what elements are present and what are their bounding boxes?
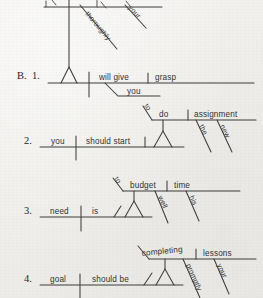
exercise-4: 4. goal should be completing lessons pro… — [24, 245, 256, 298]
ex3-infinitive-object: time — [174, 181, 190, 190]
top-fragment-a — [52, 0, 56, 5]
diagram-canvas: thoroughly your B. 1. will give grasp yo… — [0, 0, 263, 298]
ex2-modifier-the: the — [197, 123, 210, 136]
ex4-gerund-verb: completing — [141, 245, 183, 258]
ex3-predicate-slant — [114, 206, 121, 217]
ex2-subject: you — [51, 137, 65, 146]
ex4-gerund-object: lessons — [203, 249, 232, 258]
word-thoroughly: thoroughly — [83, 10, 113, 43]
ex2-modifier-new: new — [218, 123, 232, 140]
ex3-verb: is — [92, 207, 98, 216]
ex1-verb: will give — [98, 73, 129, 82]
ex1-pedestal-triangle — [61, 67, 77, 83]
word-your-top: your — [127, 3, 144, 20]
ex4-pedestal-triangle — [156, 269, 174, 285]
ex3-number: 3. — [24, 205, 32, 216]
ex2-infinitive-marker: to — [142, 102, 153, 113]
ex2-number: 2. — [24, 135, 32, 146]
ex3-modifier-his: his — [187, 194, 199, 207]
ex3-subject: need — [50, 207, 69, 216]
ex4-modifier-promptly: promptly — [184, 262, 204, 292]
ex2-pedestal-triangle — [154, 131, 172, 147]
ex4-verb: should be — [92, 275, 129, 284]
ex3-infinitive-marker: to — [112, 175, 123, 186]
ex4-predicate-slant — [144, 273, 152, 285]
ex3-pedestal-triangle — [125, 201, 143, 217]
ex4-number: 4. — [24, 273, 32, 284]
ex4-subject: goal — [50, 275, 66, 284]
worksheet-page: thoroughly your B. 1. will give grasp yo… — [0, 0, 263, 298]
ex2-verb: should start — [86, 137, 131, 146]
ex3-infinitive-verb: budget — [130, 181, 157, 190]
top-partial-diagram: thoroughly your — [44, 0, 162, 67]
ex4-modifier-your: your — [215, 262, 229, 279]
ex1-section-label: B. — [17, 70, 27, 81]
ex2-infinitive-object: assignment — [194, 110, 238, 119]
ex3-modifier-well: well — [156, 193, 170, 210]
top-fragment-c — [126, 1, 130, 6]
exercise-2: 2. you should start to do assignment the… — [24, 102, 256, 160]
ex1-direct-object: grasp — [155, 73, 177, 82]
ex1-indirect-object: you — [127, 87, 141, 96]
exercise-1: B. 1. will give grasp you — [17, 67, 254, 97]
ex1-number: 1. — [32, 70, 40, 81]
ex2-infinitive-verb: do — [159, 110, 169, 119]
exercise-3: 3. need is to budget time well his — [24, 175, 240, 231]
